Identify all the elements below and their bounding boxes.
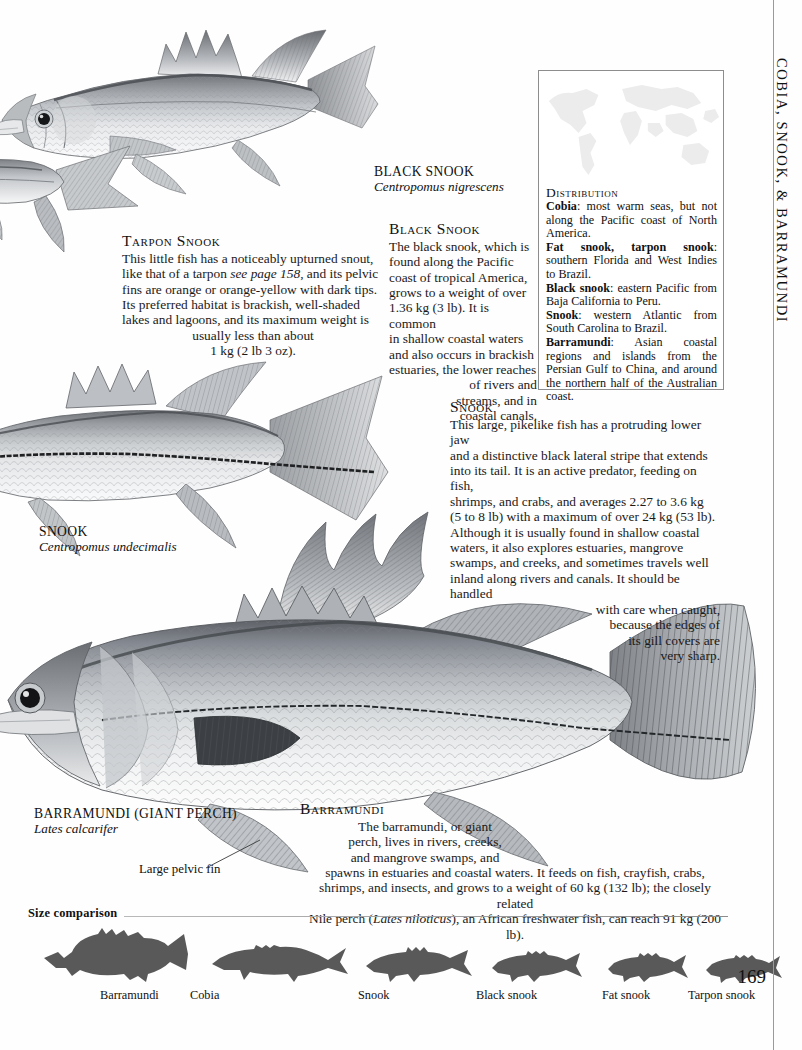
tarpon-snook-article: Tarpon Snook This little fish has a noti… bbox=[122, 232, 384, 359]
snook-line: This large, pikelike fish has a protrudi… bbox=[450, 417, 720, 448]
silhouette-label-barramundi: Barramundi bbox=[100, 988, 159, 1003]
distribution-entry-snook: Snook: western Atlantic from South Carol… bbox=[546, 309, 717, 336]
snook-line: its gill covers are bbox=[450, 633, 720, 648]
silhouette-fat-snook bbox=[606, 950, 690, 986]
black-snook-heading: Black Snook bbox=[389, 220, 537, 238]
barramundi-article: Barramundi The barramundi, or giant perc… bbox=[300, 800, 730, 942]
silhouette-cobia bbox=[210, 940, 350, 986]
silhouette-snook bbox=[364, 944, 476, 986]
black-snook-line: The black snook, which is bbox=[389, 239, 537, 254]
snook-line: shrimps, and crabs, and averages 2.27 to… bbox=[450, 494, 720, 509]
snook-article: Snook This large, pikelike fish has a pr… bbox=[450, 398, 720, 663]
world-map-watermark bbox=[539, 71, 723, 189]
barramundi-heading: Barramundi bbox=[300, 800, 730, 818]
distribution-entry-barramundi: Barramundi: Asian coastal regions and is… bbox=[546, 336, 717, 404]
snook-caption: SNOOK Centropomus undecimalis bbox=[39, 524, 177, 554]
black-snook-line: and also occurs in brackish bbox=[389, 347, 537, 362]
silhouette-label-cobia: Cobia bbox=[190, 988, 219, 1003]
size-comparison-rule bbox=[124, 916, 728, 917]
black-snook-line: coast of tropical America, bbox=[389, 270, 537, 285]
tarpon-snook-line: usually less than about bbox=[122, 328, 384, 343]
running-head-text: COBIA, SNOOK, & BARRAMUNDI bbox=[773, 58, 790, 323]
black-snook-line: in shallow coastal waters bbox=[389, 331, 537, 346]
snook-heading: Snook bbox=[450, 398, 720, 416]
silhouette-label-fat-snook: Fat snook bbox=[602, 988, 650, 1003]
snook-line: very sharp. bbox=[450, 648, 720, 663]
barramundi-line: spawns in estuaries and coastal waters. … bbox=[300, 865, 730, 880]
snook-line: into its tail. It is an active predator,… bbox=[450, 463, 720, 494]
silhouette-label-tarpon-snook: Tarpon snook bbox=[688, 988, 755, 1003]
snook-line: (5 to 8 lb) with a maximum of over 24 kg… bbox=[450, 509, 720, 524]
distribution-entry-cobia: Cobia: most warm seas, but not along the… bbox=[546, 200, 717, 241]
black-snook-line: found along the Pacific bbox=[389, 254, 537, 269]
black-snook-line: of rivers and bbox=[389, 377, 537, 392]
distribution-entry-black-snook: Black snook: eastern Pacific from Baja C… bbox=[546, 282, 717, 309]
snook-line: and a distinctive black lateral stripe t… bbox=[450, 448, 720, 463]
black-snook-line: estuaries, the lower reaches bbox=[389, 362, 537, 377]
distribution-text: Distribution Cobia: most warm seas, but … bbox=[546, 185, 717, 404]
size-comparison-label: Size comparison bbox=[28, 906, 121, 921]
barramundi-caption: BARRAMUNDI (GIANT PERCH) Lates calcarife… bbox=[34, 806, 237, 836]
silhouette-black-snook bbox=[490, 948, 586, 986]
silhouette-label-black-snook: Black snook bbox=[476, 988, 537, 1003]
black-snook-caption: BLACK SNOOK Centropomus nigrescens bbox=[374, 164, 504, 194]
distribution-entry-fat-tarpon-snook: Fat snook, tarpon snook: southern Florid… bbox=[546, 241, 717, 282]
tarpon-snook-line: Its preferred habitat is brackish, well-… bbox=[122, 297, 384, 312]
size-comparison-silhouettes bbox=[28, 924, 728, 986]
barramundi-line: perch, lives in rivers, creeks, bbox=[300, 834, 550, 849]
running-head: COBIA, SNOOK, & BARRAMUNDI bbox=[770, 58, 800, 358]
barramundi-line: The barramundi, or giant bbox=[300, 819, 550, 834]
barramundi-caption-name: BARRAMUNDI (GIANT PERCH) bbox=[34, 806, 237, 821]
snook-line: with care when caught, bbox=[450, 602, 720, 617]
tarpon-snook-line: This little fish has a noticeably upturn… bbox=[122, 251, 384, 266]
silhouette-label-snook: Snook bbox=[358, 988, 389, 1003]
page-number: 169 bbox=[738, 966, 767, 988]
tarpon-snook-line: 1 kg (2 lb 3 oz). bbox=[122, 343, 384, 358]
snook-caption-name: SNOOK bbox=[39, 524, 177, 539]
snook-line: swamps, and creeks, and sometimes travel… bbox=[450, 555, 720, 570]
tarpon-snook-heading: Tarpon Snook bbox=[122, 232, 384, 250]
black-snook-article: Black Snook The black snook, which is fo… bbox=[389, 220, 537, 424]
black-snook-caption-name: BLACK SNOOK bbox=[374, 164, 504, 179]
black-snook-line: 1.36 kg (3 lb). It is common bbox=[389, 300, 537, 331]
tarpon-snook-line: like that of a tarpon see page 158, and … bbox=[122, 266, 384, 281]
black-snook-line: grows to a weight of over bbox=[389, 285, 537, 300]
snook-line: because the edges of bbox=[450, 617, 720, 632]
black-snook-caption-latin: Centropomus nigrescens bbox=[374, 179, 504, 194]
barramundi-line: and mangrove swamps, and bbox=[300, 850, 550, 865]
barramundi-line: shrimps, and insects, and grows to a wei… bbox=[300, 880, 730, 911]
distribution-title: Distribution bbox=[546, 185, 717, 200]
see-page-ref: see page 158 bbox=[230, 266, 300, 281]
pelvic-fin-leader-line bbox=[206, 838, 262, 872]
barramundi-caption-latin: Lates calcarifer bbox=[34, 821, 237, 836]
size-comparison-labels: Barramundi Cobia Snook Black snook Fat s… bbox=[28, 988, 728, 1004]
snook-caption-latin: Centropomus undecimalis bbox=[39, 539, 177, 554]
snook-line: waters, it also explores estuaries, mang… bbox=[450, 540, 720, 555]
snook-line: Although it is usually found in shallow … bbox=[450, 525, 720, 540]
tarpon-snook-line: fins are orange or orange-yellow with da… bbox=[122, 282, 384, 297]
page-canvas: Distribution Cobia: most warm seas, but … bbox=[0, 0, 802, 1050]
distribution-box: Distribution Cobia: most warm seas, but … bbox=[538, 70, 724, 390]
tarpon-snook-line: lakes and lagoons, and its maximum weigh… bbox=[122, 312, 384, 327]
snook-line: inland along rivers and canals. It shoul… bbox=[450, 571, 720, 602]
silhouette-barramundi bbox=[42, 924, 190, 986]
